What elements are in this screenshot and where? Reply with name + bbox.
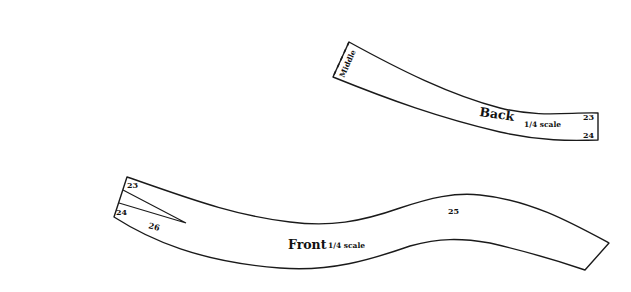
back-point-23: 23 <box>583 112 595 122</box>
front-piece: 23 24 26 25 Front 1/4 scale <box>114 177 609 270</box>
front-scale-label: 1/4 scale <box>328 241 365 250</box>
front-piece-outline <box>114 177 609 270</box>
front-point-25: 25 <box>448 206 459 216</box>
front-point-24: 24 <box>116 207 128 217</box>
front-point-23: 23 <box>127 180 139 190</box>
back-point-24: 24 <box>583 130 595 140</box>
front-title: Front <box>288 237 327 252</box>
back-piece: Middle Back 1/4 scale 23 24 <box>333 42 598 140</box>
back-scale-label: 1/4 scale <box>524 120 561 129</box>
pattern-diagram: Middle Back 1/4 scale 23 24 23 24 26 25 … <box>0 0 631 292</box>
